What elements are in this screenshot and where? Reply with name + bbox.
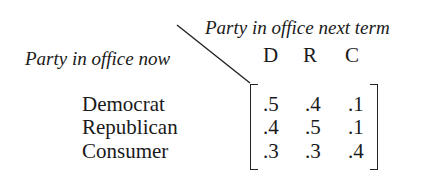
matrix-cell: .1 — [348, 115, 378, 140]
column-header-d: D — [263, 43, 278, 68]
matrix-cell: .5 — [263, 92, 293, 117]
matrix-cell: .5 — [305, 115, 335, 140]
row-label-republican: Republican — [82, 115, 178, 140]
column-axis-label: Party in office next term — [205, 17, 390, 39]
matrix-cell: .3 — [263, 139, 293, 164]
row-axis-label: Party in office now — [25, 48, 170, 70]
matrix-cell: .4 — [348, 139, 378, 164]
matrix-cell: .4 — [263, 115, 293, 140]
row-label-democrat: Democrat — [82, 92, 165, 117]
matrix-left-bracket — [250, 84, 258, 170]
matrix-cell: .3 — [305, 139, 335, 164]
matrix-cell: .4 — [305, 92, 335, 117]
row-label-consumer: Consumer — [82, 139, 168, 164]
matrix-cell: .1 — [348, 92, 378, 117]
column-header-c: C — [345, 43, 359, 68]
column-header-r: R — [303, 43, 317, 68]
